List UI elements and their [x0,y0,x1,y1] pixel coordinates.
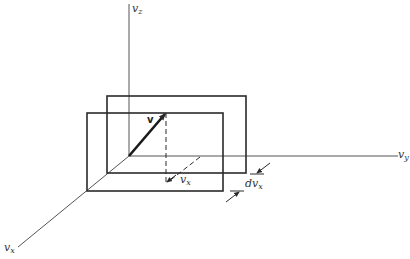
velocity-space-diagram [0,0,410,259]
vx-axis [18,156,129,247]
velocity-vector-label: v [147,115,154,125]
vx-component-label: vx [180,174,191,187]
back-slab-plane [107,96,246,173]
vx-component-arrow [167,175,176,182]
vy-axis-label: vy [398,149,409,162]
vx-axis-label: vx [4,242,15,255]
vz-axis-label: vz [132,3,142,16]
dvx-lower-arrow [226,192,239,202]
dvx-upper-arrow [257,163,270,173]
dvx-thickness-label: dvx [245,178,263,191]
